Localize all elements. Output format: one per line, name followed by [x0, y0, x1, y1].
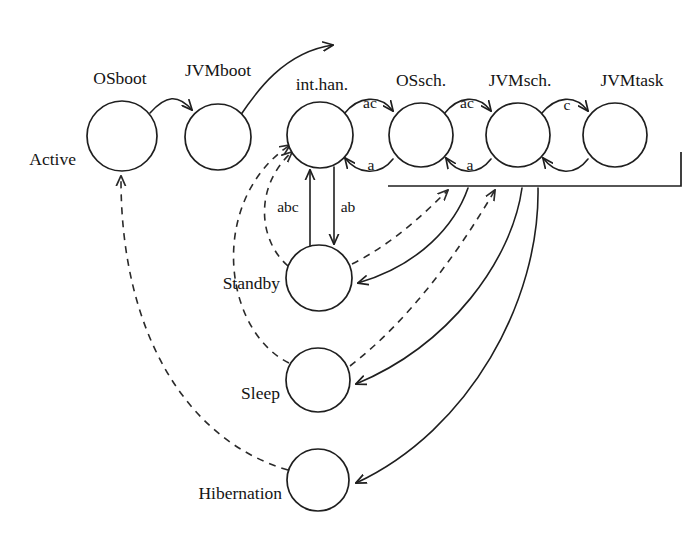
transition-bus-standby [358, 188, 468, 283]
transition-standby-bus [352, 190, 448, 264]
state-label-standby: Standby [223, 273, 281, 293]
state-label-ossch: OSsch. [396, 70, 446, 90]
state-jvmsch[interactable] [486, 103, 550, 167]
edge-label-inthan-ossch: ac [363, 94, 377, 111]
state-label-active: Active [29, 149, 76, 169]
edge-label-standby-inthan: abc [277, 198, 299, 215]
state-sleep[interactable] [286, 348, 350, 412]
state-standby[interactable] [286, 245, 352, 311]
state-label-jvmboot: JVMboot [185, 60, 251, 80]
transition-osboot-jvmboot [150, 99, 192, 113]
state-jvmtask[interactable] [583, 103, 647, 167]
state-label-hibernation: Hibernation [198, 483, 282, 503]
edge-label-jvmsch-ossch: a [467, 156, 474, 173]
transition-sleep-inthan-dashed [234, 145, 290, 363]
edge-label-ossch-jvmsch: ac [460, 94, 474, 111]
transition-hibernation-active [121, 176, 288, 470]
state-label-jvmsch: JVMsch. [489, 70, 552, 90]
transition-label-osboot: OSboot [93, 68, 147, 88]
transition-bus-sleep [356, 188, 522, 384]
state-active[interactable] [87, 101, 157, 171]
state-diagram-container: Active JVMboot int.han. OSsch. JVMsch. J… [0, 0, 695, 541]
edge-label-ossch-inthan: a [368, 156, 375, 173]
state-label-jvmtask: JVMtask [600, 70, 663, 90]
edge-label-inthan-standby: ab [341, 198, 356, 215]
state-ossch[interactable] [389, 103, 453, 167]
transition-jvmtask-jvmsch [543, 158, 588, 171]
state-inthan[interactable] [287, 102, 353, 168]
state-hibernation[interactable] [287, 449, 349, 511]
edge-label-jvmsch-jvmtask: c [564, 96, 571, 113]
state-jvmboot[interactable] [185, 104, 251, 170]
state-label-inthan: int.han. [296, 74, 349, 94]
state-diagram: Active JVMboot int.han. OSsch. JVMsch. J… [0, 0, 695, 541]
state-label-sleep: Sleep [241, 383, 280, 403]
